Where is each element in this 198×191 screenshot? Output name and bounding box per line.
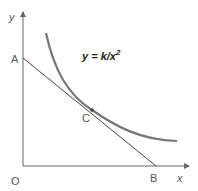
point-b-label: B xyxy=(150,172,157,184)
point-c-label: C xyxy=(82,112,90,124)
curve-equation-base: y = k/x xyxy=(81,50,117,62)
tangent-curve-diagram: y x O A B C y = k/x2 xyxy=(0,0,198,191)
y-axis-label: y xyxy=(8,11,16,23)
origin-label: O xyxy=(11,175,20,187)
x-axis-label: x xyxy=(176,172,183,184)
curve-equation: y = k/x2 xyxy=(81,48,121,62)
point-a-label: A xyxy=(11,53,19,65)
curve-equation-exponent: 2 xyxy=(115,48,121,57)
tangent-point-c xyxy=(90,108,94,112)
